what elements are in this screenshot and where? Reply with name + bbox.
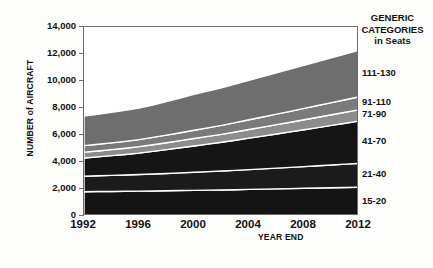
legend-title-line: in Seats xyxy=(352,35,433,47)
x-tick-label: 2012 xyxy=(330,218,386,230)
legend-entry-21-40: 21-40 xyxy=(362,168,386,179)
y-tick-mark xyxy=(79,53,84,54)
legend-title-line: CATEGORIES xyxy=(352,24,433,36)
x-tick-label: 2008 xyxy=(275,218,331,230)
y-tick-mark xyxy=(79,26,84,27)
x-tick-label: 2004 xyxy=(220,218,276,230)
stacked-area-svg xyxy=(84,27,358,215)
y-tick-mark xyxy=(79,134,84,135)
y-tick-label: 6,000 xyxy=(30,129,76,139)
x-tick-label: 1992 xyxy=(55,218,111,230)
y-tick-mark xyxy=(79,107,84,108)
y-tick-mark xyxy=(79,80,84,81)
y-tick-mark xyxy=(79,188,84,189)
y-tick-mark xyxy=(79,215,84,216)
y-tick-mark xyxy=(79,161,84,162)
y-tick-label: 4,000 xyxy=(30,156,76,166)
legend-title: GENERICCATEGORIESin Seats xyxy=(352,12,433,47)
y-tick-label: 10,000 xyxy=(30,75,76,85)
legend-entry-15-20: 15-20 xyxy=(362,195,386,206)
legend-title-line: GENERIC xyxy=(352,12,433,24)
plot-area xyxy=(83,26,358,215)
x-tick-label: 2000 xyxy=(165,218,221,230)
legend-entry-71-90: 71-90 xyxy=(362,108,386,119)
x-axis-title: YEAR END xyxy=(258,232,304,242)
x-tick-label: 1996 xyxy=(110,218,166,230)
y-tick-label: 14,000 xyxy=(30,21,76,31)
y-tick-label: 2,000 xyxy=(30,183,76,193)
y-tick-label: 8,000 xyxy=(30,102,76,112)
y-tick-label: 12,000 xyxy=(30,48,76,58)
legend-entry-111-130: 111-130 xyxy=(362,67,396,78)
legend-entry-41-70: 41-70 xyxy=(362,135,386,146)
chart-figure: NUMBER of AIRCRAFT 14,00012,00010,0008,0… xyxy=(0,0,433,268)
legend-entry-91-110: 91-110 xyxy=(362,96,391,107)
